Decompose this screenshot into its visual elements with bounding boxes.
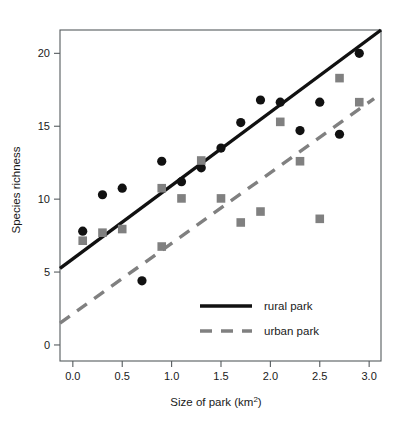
- series-rural-park: [78, 49, 364, 286]
- data-point-square: [296, 157, 305, 166]
- chart-legend: rural parkurban park: [200, 300, 319, 337]
- data-point-circle: [256, 95, 265, 104]
- legend-label-rural-park: rural park: [264, 300, 313, 312]
- y-axis-title: Species richness: [10, 146, 22, 233]
- data-point-circle: [98, 190, 107, 199]
- x-axis-title: Size of park (km2): [170, 395, 262, 408]
- fit-line-urban-park: [60, 99, 374, 324]
- data-point-circle: [335, 130, 344, 139]
- data-point-square: [78, 236, 87, 245]
- data-point-circle: [315, 98, 324, 107]
- y-tick-label: 5: [44, 266, 50, 278]
- x-tick-label: 0.0: [65, 370, 80, 382]
- data-point-circle: [276, 98, 285, 107]
- data-point-circle: [216, 144, 225, 153]
- data-point-square: [177, 194, 186, 203]
- x-tick-label: 3.0: [361, 370, 376, 382]
- x-tick-label: 2.0: [263, 370, 278, 382]
- data-series-layer: [60, 30, 381, 323]
- x-tick-label: 1.5: [213, 370, 228, 382]
- data-point-circle: [137, 276, 146, 285]
- data-point-square: [157, 184, 166, 193]
- data-point-circle: [355, 49, 364, 58]
- data-point-circle: [157, 157, 166, 166]
- data-point-circle: [295, 126, 304, 135]
- data-point-square: [118, 225, 127, 234]
- legend-label-urban-park: urban park: [264, 325, 319, 337]
- plot-canvas: 0.00.51.01.52.02.53.005101520 rural park…: [0, 0, 400, 425]
- x-tick-label: 2.5: [312, 370, 327, 382]
- y-tick-label: 10: [38, 193, 50, 205]
- data-point-square: [256, 207, 265, 216]
- data-point-square: [335, 74, 344, 83]
- scatter-plot-figure: 0.00.51.01.52.02.53.005101520 rural park…: [0, 0, 400, 425]
- data-point-circle: [118, 184, 127, 193]
- data-point-square: [276, 118, 285, 127]
- data-point-square: [98, 228, 107, 237]
- data-point-square: [217, 194, 226, 203]
- x-tick-label: 0.5: [115, 370, 130, 382]
- data-point-square: [355, 98, 364, 107]
- y-tick-label: 20: [38, 47, 50, 59]
- data-point-square: [236, 218, 245, 227]
- data-point-square: [197, 156, 206, 165]
- x-tick-label: 1.0: [164, 370, 179, 382]
- data-point-square: [315, 215, 324, 224]
- y-tick-label: 15: [38, 120, 50, 132]
- data-point-square: [157, 242, 166, 251]
- data-point-circle: [177, 177, 186, 186]
- y-tick-label: 0: [44, 339, 50, 351]
- data-point-circle: [236, 118, 245, 127]
- data-point-circle: [78, 227, 87, 236]
